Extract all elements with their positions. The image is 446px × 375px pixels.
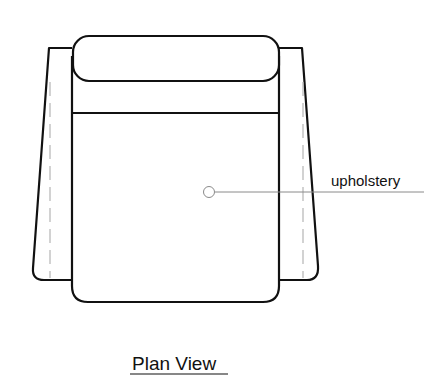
plan-view-drawing: upholstery Plan View: [0, 0, 446, 375]
annotation-label-upholstery: upholstery: [331, 172, 401, 189]
seat-body: [72, 56, 279, 302]
left-arm: [33, 48, 72, 280]
right-arm: [279, 48, 318, 280]
drawing-title: Plan View: [132, 353, 216, 374]
backrest-cushion: [73, 36, 279, 81]
